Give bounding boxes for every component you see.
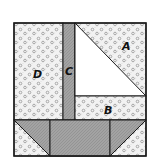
- label-a: A: [121, 40, 131, 53]
- label-d: D: [33, 68, 42, 81]
- label-c: C: [65, 65, 73, 78]
- hull-center: [50, 120, 110, 156]
- label-b: B: [104, 104, 112, 117]
- sailboat-quilt-block: D C A B: [0, 0, 156, 159]
